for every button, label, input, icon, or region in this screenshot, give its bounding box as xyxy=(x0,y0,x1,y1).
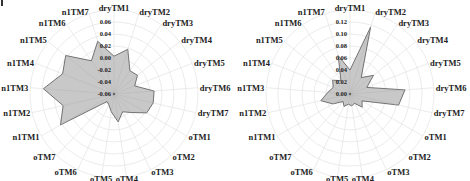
axis-label-n1tm5: n1TM5 xyxy=(20,35,47,45)
axis-label-n1tm6: n1TM6 xyxy=(275,18,302,28)
axis-label-drytm1: dryTM1 xyxy=(99,3,130,13)
axis-label-otm4: oTM4 xyxy=(116,174,139,181)
radar-chart-left: -0.06-0.04-0.020.000.020.040.06dryTM1dry… xyxy=(0,0,235,181)
axis-label-otm5: oTM5 xyxy=(90,174,112,181)
tick-label: 0.00 xyxy=(100,54,111,61)
axis-label-drytm5: dryTM5 xyxy=(194,58,225,68)
radar-plot-right: 0.000.020.040.060.080.100.12dryTM1dryTM2… xyxy=(235,0,470,181)
radar-chart-right: 0.000.020.040.060.080.100.12dryTM1dryTM2… xyxy=(235,0,470,181)
axis-label-otm4: oTM4 xyxy=(352,174,375,181)
tick-label: -0.04 xyxy=(97,78,111,85)
axis-label-otm3: oTM3 xyxy=(151,167,173,177)
tick-label: 0.00 xyxy=(336,90,347,97)
axis-label-n1tm3: n1TM3 xyxy=(1,83,28,93)
axis-label-n1tm5: n1TM5 xyxy=(256,35,283,45)
axis-label-drytm4: dryTM4 xyxy=(181,35,212,45)
tick-label: 0.10 xyxy=(336,30,347,37)
tick-label: 0.08 xyxy=(336,42,348,49)
axis-label-drytm6: dryTM6 xyxy=(436,83,467,93)
axis-label-drytm5: dryTM5 xyxy=(430,58,461,68)
axis-label-n1tm7: n1TM7 xyxy=(62,7,90,17)
axis-label-drytm1: dryTM1 xyxy=(335,3,366,13)
axis-label-drytm4: dryTM4 xyxy=(417,35,448,45)
axis-label-n1tm4: n1TM4 xyxy=(243,58,271,68)
tick-label: 0.04 xyxy=(336,66,348,73)
axis-label-drytm7: dryTM7 xyxy=(198,108,229,118)
axis-label-n1tm2: n1TM2 xyxy=(3,108,30,118)
axis-label-drytm2: dryTM2 xyxy=(375,7,406,17)
tick-label: 0.06 xyxy=(100,18,112,25)
axis-label-otm1: oTM1 xyxy=(425,132,447,142)
tick-label: 0.02 xyxy=(336,78,347,85)
axis-label-otm2: oTM2 xyxy=(409,152,431,162)
tick-label: 0.06 xyxy=(336,54,348,61)
tick-label: -0.02 xyxy=(97,66,111,73)
axis-label-otm1: oTM1 xyxy=(189,132,211,142)
axis-label-drytm2: dryTM2 xyxy=(139,7,170,17)
axis-label-otm6: oTM6 xyxy=(54,167,76,177)
center-dot xyxy=(349,93,351,95)
axis-label-n1tm4: n1TM4 xyxy=(7,58,35,68)
tick-label: 0.12 xyxy=(336,18,347,25)
axis-label-drytm6: dryTM6 xyxy=(200,83,231,93)
axis-label-n1tm7: n1TM7 xyxy=(298,7,326,17)
axis-label-otm5: oTM5 xyxy=(326,174,348,181)
axis-label-otm6: oTM6 xyxy=(290,167,312,177)
radar-plot-left: -0.06-0.04-0.020.000.020.040.06dryTM1dry… xyxy=(0,0,235,181)
data-polygon xyxy=(321,27,405,107)
axis-label-drytm7: dryTM7 xyxy=(434,108,465,118)
axis-label-drytm3: dryTM3 xyxy=(398,18,429,28)
tick-label: 0.02 xyxy=(100,42,111,49)
axis-label-otm2: oTM2 xyxy=(173,152,195,162)
axis-label-n1tm1: n1TM1 xyxy=(249,132,276,142)
axis-label-n1tm2: n1TM2 xyxy=(239,108,266,118)
tick-label: -0.06 xyxy=(97,90,111,97)
axis-label-drytm3: dryTM3 xyxy=(162,18,193,28)
axis-label-otm7: oTM7 xyxy=(33,152,56,162)
axis-label-otm7: oTM7 xyxy=(269,152,292,162)
center-dot xyxy=(113,93,115,95)
axis-label-n1tm3: n1TM3 xyxy=(237,83,264,93)
grid-spoke xyxy=(293,94,350,156)
tick-label: 0.04 xyxy=(100,30,112,37)
axis-label-n1tm1: n1TM1 xyxy=(13,132,40,142)
axis-label-n1tm6: n1TM6 xyxy=(39,18,66,28)
axis-label-otm3: oTM3 xyxy=(387,167,409,177)
